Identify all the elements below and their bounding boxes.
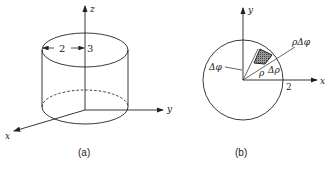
caption-b: (b) xyxy=(235,147,247,158)
rho-label: ρ xyxy=(258,68,265,78)
delta-rho-label: Δρ xyxy=(267,65,280,75)
figure-a-cylinder: 2 3 z x (a) xyxy=(5,4,163,158)
y-axis-label: y xyxy=(166,104,173,114)
rho-delta-phi-label: ρΔφ xyxy=(291,37,311,47)
caption-a: (a) xyxy=(78,147,90,158)
delta-phi-label: Δφ xyxy=(208,62,222,72)
y-axis-b-label: y xyxy=(247,5,254,15)
figure-canvas: 2 3 z x (a) Δφ ρ Δρ ρΔφ 2 y x (b) y xyxy=(0,0,330,170)
radius-2-label: 2 xyxy=(286,82,292,92)
delta-phi-leader xyxy=(225,67,242,70)
radius-label: 2 xyxy=(59,43,65,54)
height-label: 3 xyxy=(87,43,93,54)
x-axis xyxy=(14,110,85,131)
x-axis-b-label: x xyxy=(320,76,325,86)
z-axis-label: z xyxy=(89,4,95,14)
figure-b-polar: Δφ ρ Δρ ρΔφ 2 y x (b) xyxy=(203,5,325,158)
x-axis-label: x xyxy=(5,131,10,141)
